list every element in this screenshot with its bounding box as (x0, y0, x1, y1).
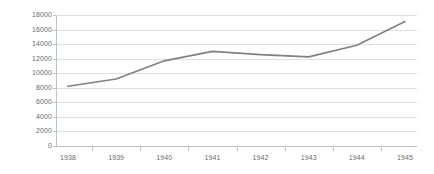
series-1-line (68, 22, 405, 87)
series-line-layer (0, 0, 434, 174)
line-chart: 0200040006000800010000120001400016000180… (0, 0, 434, 174)
